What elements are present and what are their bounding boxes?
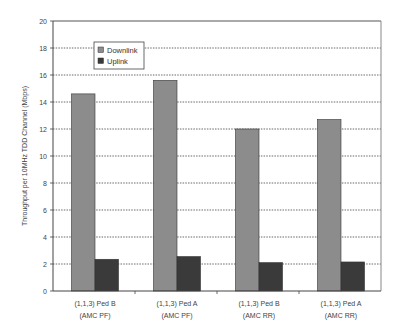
x-category-label: (1,1,3) Ped A [157, 300, 198, 308]
y-tick-label: 4 [43, 234, 47, 241]
y-tick-label: 0 [43, 288, 47, 295]
x-category-label: (1,1,3) Ped A [321, 300, 362, 308]
bar-chart: 02468101214161820 (1,1,3) Ped B(AMC PF)(… [0, 0, 401, 336]
legend-label-uplink: Uplink [107, 57, 128, 66]
x-category-label: (AMC RR) [243, 312, 275, 320]
y-tick-label: 12 [39, 126, 47, 133]
y-axis-ticks: 02468101214161820 [39, 18, 53, 295]
bar-uplink [259, 263, 283, 291]
bar-downlink [72, 94, 96, 291]
y-tick-label: 2 [43, 261, 47, 268]
y-tick-label: 18 [39, 45, 47, 52]
bars [72, 80, 365, 291]
y-tick-label: 16 [39, 72, 47, 79]
x-category-label: (AMC PF) [79, 312, 110, 320]
x-category-label: (1,1,3) Ped B [74, 300, 116, 308]
x-category-label: (AMC PF) [161, 312, 192, 320]
y-axis-label: Throughput per 10MHz TDD Channel (Mbps) [21, 86, 29, 226]
bar-uplink [95, 259, 119, 291]
x-category-label: (AMC RR) [325, 312, 357, 320]
legend-swatch-downlink [98, 47, 104, 53]
x-axis-labels: (1,1,3) Ped B(AMC PF)(1,1,3) Ped A(AMC P… [74, 300, 361, 320]
y-tick-label: 10 [39, 153, 47, 160]
y-tick-label: 6 [43, 207, 47, 214]
legend-label-downlink: Downlink [107, 46, 138, 55]
bar-uplink [177, 257, 201, 291]
y-tick-label: 14 [39, 99, 47, 106]
x-category-label: (1,1,3) Ped B [238, 300, 280, 308]
y-tick-label: 20 [39, 18, 47, 25]
bar-uplink [341, 262, 365, 291]
bar-downlink [236, 129, 260, 291]
bar-downlink [318, 120, 342, 291]
legend-swatch-uplink [98, 58, 104, 64]
y-tick-label: 8 [43, 180, 47, 187]
bar-downlink [154, 80, 178, 291]
legend: DownlinkUplink [94, 42, 144, 69]
